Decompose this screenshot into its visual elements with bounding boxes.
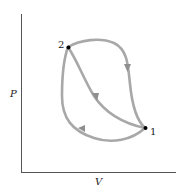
- upper-path: [68, 40, 145, 128]
- pv-diagram: P V 2 1: [0, 0, 185, 191]
- point-1-label: 1: [150, 126, 156, 137]
- x-axis-label: V: [95, 176, 104, 187]
- state-point-1: [144, 126, 148, 130]
- y-axis-label: P: [9, 88, 17, 99]
- arrow-down-icon: [124, 64, 131, 72]
- middle-path: [68, 47, 145, 128]
- state-point-2: [67, 46, 71, 50]
- point-2-label: 2: [58, 39, 64, 50]
